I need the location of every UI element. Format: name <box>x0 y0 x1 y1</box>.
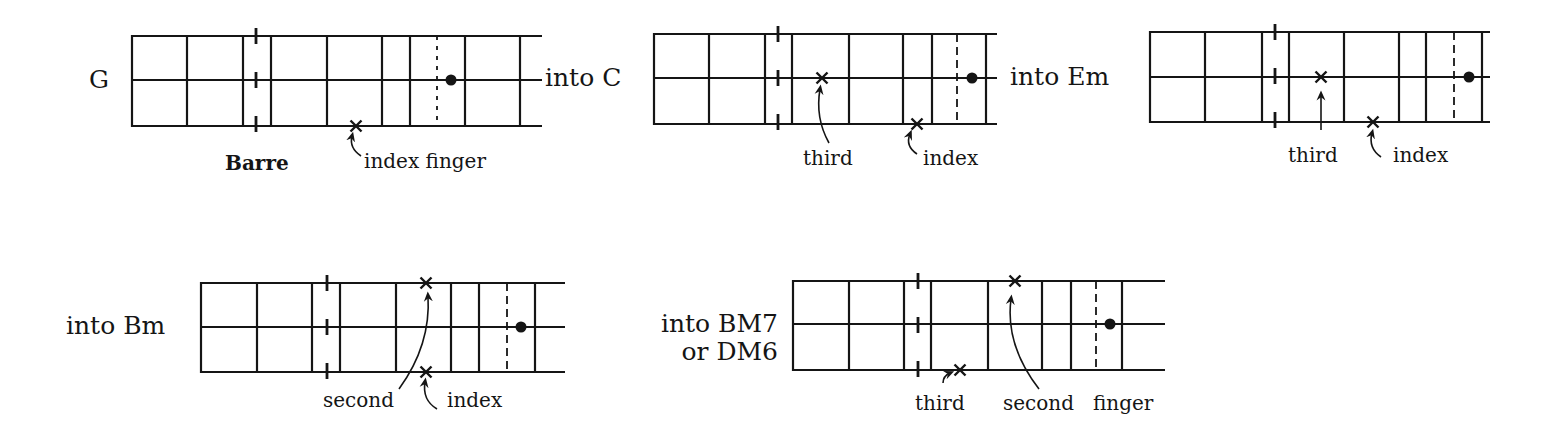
finger-dot-icon <box>516 322 527 333</box>
pointer-arrow-icon <box>425 382 438 409</box>
chord-diagram-bm: into Bmsecondindex <box>66 275 565 412</box>
finger-dot-icon <box>1464 72 1475 83</box>
chord-name-label: into C <box>545 63 621 92</box>
pointer-arrow-icon <box>943 373 950 383</box>
finger-annotation: finger <box>1093 391 1154 415</box>
finger-annotation: third <box>1288 143 1338 167</box>
finger-annotation: second <box>1003 391 1074 415</box>
chord-diagram-em: into Emthirdindex <box>1010 24 1490 167</box>
finger-annotation: Barre <box>225 151 289 175</box>
fretboard-diagrams: GBarreindex fingerinto Cthirdindexinto E… <box>0 0 1560 446</box>
chord-change-figure: GBarreindex fingerinto Cthirdindexinto E… <box>0 0 1560 446</box>
chord-diagram-bm7: into BM7or DM6thirdsecondfinger <box>661 273 1165 415</box>
pointer-arrow-icon <box>1371 133 1381 157</box>
finger-annotation: third <box>803 146 853 170</box>
finger-annotation: index <box>1393 143 1449 167</box>
diagrams-layer: GBarreindex fingerinto Cthirdindexinto E… <box>66 24 1490 415</box>
chord-diagram-c: into Cthirdindex <box>545 26 997 170</box>
chord-name-label: into Bm <box>66 311 166 340</box>
finger-annotation: index <box>923 146 979 170</box>
finger-annotation: second <box>323 388 394 412</box>
pointer-arrow-icon <box>1010 299 1039 389</box>
finger-annotation: index <box>447 388 503 412</box>
chord-name-label: into BM7 <box>661 309 778 338</box>
pointer-arrow-icon <box>351 136 361 156</box>
pointer-arrow-icon <box>819 89 829 143</box>
pointer-arrow-icon <box>909 134 917 154</box>
chord-name-label: into Em <box>1010 62 1109 91</box>
finger-annotation: index finger <box>364 149 486 173</box>
chord-name-label: G <box>89 65 109 94</box>
chord-name-label: or DM6 <box>682 337 779 366</box>
finger-dot-icon <box>967 73 978 84</box>
finger-dot-icon <box>446 75 457 86</box>
finger-dot-icon <box>1105 319 1116 330</box>
chord-diagram-g: GBarreindex finger <box>89 28 542 175</box>
finger-annotation: third <box>915 391 965 415</box>
